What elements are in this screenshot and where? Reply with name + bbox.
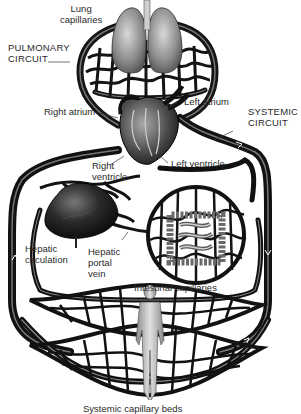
label-intestinal-capillaries: Intestinal capillaries xyxy=(134,282,217,293)
label-pulmonary-circuit: PULMONARY CIRCUIT xyxy=(8,42,70,64)
label-lung-capillaries: Lung capillaries xyxy=(60,3,102,25)
label-right-atrium: Right atrium xyxy=(44,106,95,117)
circulatory-diagram: Lung capillaries PULMONARY CIRCUIT Right… xyxy=(0,0,301,414)
label-systemic-circuit: SYSTEMIC CIRCUIT xyxy=(248,106,298,128)
label-right-ventricle: Right ventricle xyxy=(92,160,127,182)
label-left-ventricle: Left ventricle xyxy=(171,158,225,169)
label-hepatic-circulation: Hepatic circulation xyxy=(25,243,68,265)
label-systemic-capillary-beds: Systemic capillary beds xyxy=(83,403,182,414)
liver xyxy=(45,183,118,248)
label-left-atrium: Left atrium xyxy=(184,96,229,107)
lung-icon xyxy=(112,8,146,73)
label-hepatic-portal-vein: Hepatic portal vein xyxy=(88,246,120,279)
